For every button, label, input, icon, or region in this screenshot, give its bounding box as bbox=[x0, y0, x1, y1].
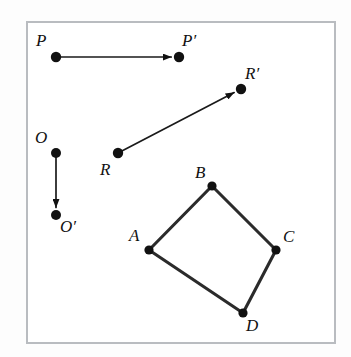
point-label-rp: R′ bbox=[244, 64, 259, 83]
point-marker-rp bbox=[236, 84, 246, 94]
geometry-diagram: PP′OO′RR′ABCD bbox=[0, 0, 351, 357]
point-label-p: P bbox=[35, 31, 46, 50]
point-label-b: B bbox=[195, 163, 206, 182]
point-marker-pp bbox=[174, 52, 184, 62]
point-label-c: C bbox=[283, 227, 295, 246]
point-label-op: O′ bbox=[60, 217, 76, 236]
point-marker-r bbox=[113, 148, 123, 158]
grid-outline bbox=[27, 22, 335, 343]
point-label-d: D bbox=[245, 316, 259, 335]
point-marker-p bbox=[51, 52, 61, 62]
point-label-r: R bbox=[99, 160, 111, 179]
point-marker-o bbox=[51, 148, 61, 158]
point-label-a: A bbox=[128, 226, 140, 245]
point-label-pp: P′ bbox=[181, 31, 196, 50]
point-marker-a bbox=[144, 245, 153, 254]
figure-root: PP′OO′RR′ABCD bbox=[0, 0, 351, 357]
point-label-o: O bbox=[35, 128, 47, 147]
point-marker-b bbox=[207, 181, 216, 190]
point-marker-c bbox=[271, 245, 280, 254]
